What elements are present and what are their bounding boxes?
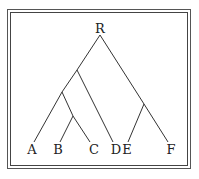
edge-n2-n3 [62,92,73,116]
node-label-f: F [166,143,175,156]
edge-n2-a [34,92,62,142]
edge-r-n4 [100,35,144,104]
node-label-d: D [111,143,121,156]
edge-n3-c [73,116,90,142]
node-label-b: B [53,143,63,156]
edge-n1-n2 [62,70,77,92]
node-label-e: E [122,143,132,156]
edge-n4-e [128,104,144,142]
edge-n3-b [60,116,73,142]
edge-r-n1 [77,35,100,70]
edge-n4-f [144,104,168,142]
node-label-r: R [95,22,105,35]
node-label-c: C [89,143,99,156]
node-label-a: A [27,143,36,156]
